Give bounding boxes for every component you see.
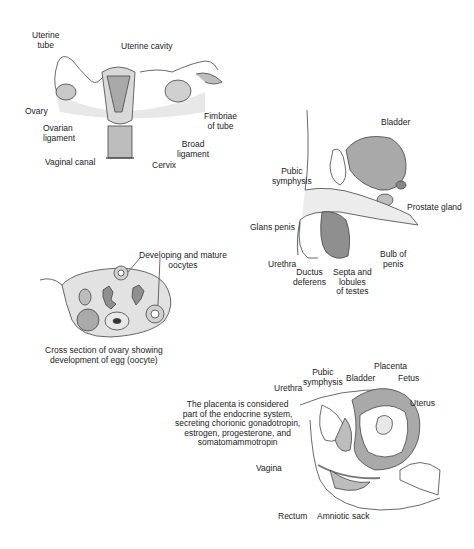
note-text: somatomammotropin — [175, 438, 300, 448]
label-ductus-deferens: Ductus deferens — [293, 268, 326, 287]
label-fimbriae: Fimbriae of tube — [204, 112, 237, 131]
label-oocytes: Developing and mature oocytes — [139, 251, 227, 270]
male-reproductive-drawing — [297, 110, 418, 258]
label-uterine-cavity: Uterine cavity — [121, 42, 173, 52]
label-pubic-symphysis: Pubic symphysis — [272, 167, 312, 186]
label-uterus: Uterus — [410, 399, 435, 409]
label-text: deferens — [293, 278, 326, 288]
label-vagina: Vagina — [256, 464, 282, 474]
label-glans-penis: Glans penis — [250, 223, 295, 233]
label-amniotic-sack: Amniotic sack — [317, 512, 369, 522]
label-bulb-of-penis: Bulb of penis — [380, 250, 406, 269]
label-text: ligament — [43, 134, 75, 144]
label-urethra-2: Urethra — [274, 384, 302, 394]
label-prostate-gland: Prostate gland — [407, 203, 462, 213]
label-text: penis — [380, 260, 406, 270]
label-pubic-symphysis-2: Pubic symphysis — [303, 368, 343, 387]
label-text: symphysis — [272, 177, 312, 187]
label-text: symphysis — [303, 378, 343, 388]
label-ovarian-ligament: Ovarian ligament — [43, 124, 75, 143]
label-text: tube — [32, 41, 59, 51]
label-vaginal-canal: Vaginal canal — [45, 158, 95, 168]
label-placenta: Placenta — [374, 362, 407, 372]
label-septa-lobules: Septa and lobules of testes — [333, 268, 372, 297]
label-rectum: Rectum — [278, 512, 307, 522]
label-broad-ligament: Broad ligament — [177, 140, 209, 159]
label-text: of testes — [333, 287, 372, 297]
ovary-caption: Cross section of ovary showing developme… — [45, 346, 163, 365]
anatomy-illustrations — [0, 0, 474, 549]
label-ovary: Ovary — [25, 107, 48, 117]
label-uterine-tube: Uterine tube — [32, 31, 59, 50]
caption-text: development of egg (oocyte) — [45, 356, 163, 366]
label-text: of tube — [204, 122, 237, 132]
label-text: oocytes — [139, 261, 227, 271]
label-text: ligament — [177, 150, 209, 160]
label-bladder: Bladder — [381, 118, 410, 128]
placenta-note: The placenta is considered part of the e… — [175, 400, 300, 448]
label-fetus: Fetus — [398, 374, 419, 384]
label-bladder-2: Bladder — [346, 374, 375, 384]
label-cervix: Cervix — [152, 161, 176, 171]
